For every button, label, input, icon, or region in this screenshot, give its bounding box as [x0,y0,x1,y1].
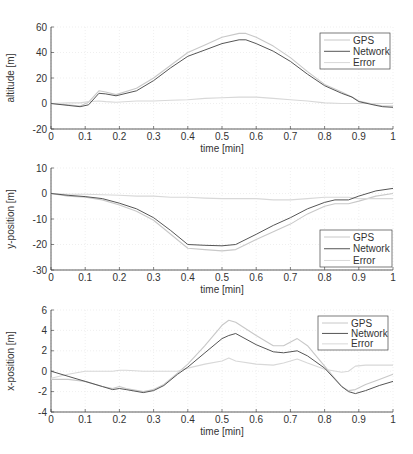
x-tick-label: 0 [48,131,54,142]
legend-label-network: Network [353,46,391,57]
legend-label-network: Network [353,243,391,254]
y-tick-label: 2 [41,345,47,356]
y-tick-label: 4 [41,325,47,336]
x-tick-label: 0.6 [249,131,263,142]
y-tick-label: -30 [33,265,48,276]
x-tick-label: 0.3 [147,272,161,283]
legend-label-error: Error [353,57,376,68]
x-tick-label: 0.8 [318,272,332,283]
x-tick-label: 0.6 [249,414,263,425]
legend-label-gps: GPS [351,318,372,329]
figure: 00.10.20.30.40.50.60.70.80.91-200204060t… [0,0,413,454]
x-tick-label: 0.8 [318,131,332,142]
y-axis-label: x-position [m] [5,331,16,391]
legend: GPSNetworkError [320,230,392,267]
y-tick-label: 60 [36,22,48,33]
x-tick-label: 0.1 [78,414,92,425]
x-tick-label: 0.4 [181,272,195,283]
x-tick-label: 0.7 [283,272,297,283]
x-tick-label: 0.9 [352,414,366,425]
x-tick-label: 0.2 [112,272,126,283]
y-axis-label: altitude [m] [5,53,16,102]
x-tick-label: 0.8 [318,414,332,425]
x-axis-label: time [min] [200,426,244,437]
x-tick-label: 0.4 [181,131,195,142]
subplot-1: 00.10.20.30.40.50.60.70.80.91-200204060t… [5,22,396,155]
x-tick-label: 0.9 [352,272,366,283]
x-tick-label: 0.1 [78,272,92,283]
x-tick-label: 0.7 [283,414,297,425]
subplot-2: 00.10.20.30.40.50.60.70.80.91-30-20-1001… [5,163,396,296]
x-tick-label: 0 [48,272,54,283]
y-tick-label: 20 [36,73,48,84]
y-tick-label: 6 [41,305,47,316]
legend-label-error: Error [351,338,374,349]
y-axis-label: y-position [m] [5,189,16,249]
y-tick-label: -20 [33,239,48,250]
y-tick-label: -2 [38,386,47,397]
x-tick-label: 0.9 [352,131,366,142]
x-tick-label: 0.2 [112,131,126,142]
y-tick-label: -4 [38,407,47,418]
x-tick-label: 0.3 [147,414,161,425]
x-tick-label: 0.7 [283,131,297,142]
subplot-3: 00.10.20.30.40.50.60.70.80.91-4-20246tim… [5,305,396,438]
x-tick-label: 0.5 [215,131,229,142]
y-tick-label: 0 [41,98,47,109]
legend: GPSNetworkError [318,316,389,350]
y-tick-label: 0 [41,366,47,377]
legend-label-gps: GPS [353,232,374,243]
x-axis-label: time [min] [200,143,244,154]
x-tick-label: 0.3 [147,131,161,142]
legend-label-gps: GPS [353,35,374,46]
y-tick-label: 10 [36,163,48,174]
x-axis-label: time [min] [200,284,244,295]
x-tick-label: 1 [390,131,396,142]
x-tick-label: 0.5 [215,414,229,425]
legend-label-network: Network [351,328,389,339]
legend: GPSNetworkError [320,33,391,69]
y-tick-label: -20 [33,124,48,135]
x-tick-label: 0.5 [215,272,229,283]
x-tick-label: 0.2 [112,414,126,425]
x-tick-label: 0.6 [249,272,263,283]
x-tick-label: 0.4 [181,414,195,425]
y-tick-label: 0 [41,188,47,199]
x-tick-label: 0.1 [78,131,92,142]
x-tick-label: 0 [48,414,54,425]
x-tick-label: 1 [390,414,396,425]
y-tick-label: 40 [36,47,48,58]
legend-label-error: Error [353,255,376,266]
y-tick-label: -10 [33,214,48,225]
x-tick-label: 1 [390,272,396,283]
